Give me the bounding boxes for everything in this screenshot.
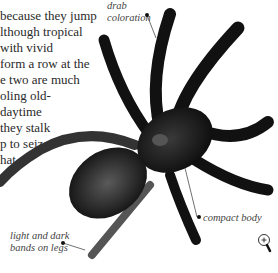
- caption-line: light and dark: [10, 230, 70, 242]
- zoom-in-button[interactable]: [256, 232, 272, 258]
- caption-compact-body: compact body: [203, 212, 262, 224]
- leader-dot: [61, 241, 65, 245]
- leader-dot: [145, 13, 149, 17]
- caption-line: drab: [107, 0, 151, 12]
- caption-drab-coloration: drab coloration: [107, 0, 151, 24]
- magnifier-plus-icon: [256, 232, 272, 258]
- leader-dot: [197, 215, 201, 219]
